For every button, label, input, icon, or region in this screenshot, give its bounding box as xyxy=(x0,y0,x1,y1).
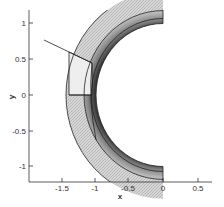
mesh-plot: -1.5 -1 -0.5 0 0.5 1 0.5 0 -0.5 -1 x y xyxy=(0,0,224,207)
svg-text:-1: -1 xyxy=(19,162,27,171)
x-tick-labels: -1.5 -1 -0.5 0 0.5 xyxy=(55,184,204,193)
mesh-region xyxy=(66,0,163,199)
svg-text:0.5: 0.5 xyxy=(15,55,27,64)
y-axis-title: y xyxy=(7,94,16,99)
x-axis-title: x xyxy=(118,192,123,201)
svg-text:0: 0 xyxy=(22,91,27,100)
svg-text:-1: -1 xyxy=(91,184,99,193)
svg-text:0.5: 0.5 xyxy=(192,184,204,193)
svg-text:-1.5: -1.5 xyxy=(55,184,69,193)
svg-text:-0.5: -0.5 xyxy=(121,184,135,193)
svg-text:0: 0 xyxy=(161,184,166,193)
svg-text:-0.5: -0.5 xyxy=(12,127,26,136)
svg-text:1: 1 xyxy=(22,19,27,28)
